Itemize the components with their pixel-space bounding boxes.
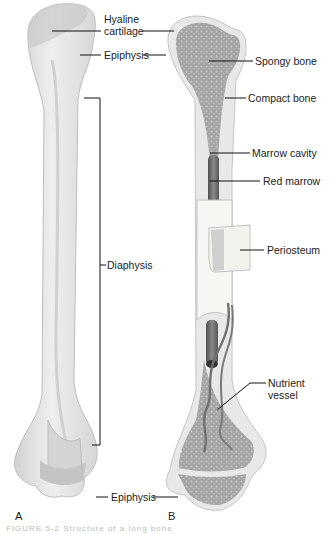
label-diaphysis: Diaphysis bbox=[107, 259, 153, 271]
panel-label-a: A bbox=[15, 510, 22, 522]
label-compact-bone: Compact bone bbox=[248, 92, 316, 104]
label-epiphysis-top: Epiphysis bbox=[104, 49, 149, 61]
label-epiphysis-bottom: Epiphysis bbox=[111, 491, 156, 503]
figure-caption: FIGURE 5-2 Structure of a long bone bbox=[6, 524, 173, 533]
bone-b-section bbox=[166, 16, 266, 510]
label-periosteum: Periosteum bbox=[267, 244, 320, 256]
label-hyaline-cartilage: Hyaline cartilage bbox=[104, 13, 144, 37]
panel-label-b: B bbox=[168, 510, 175, 522]
label-red-marrow: Red marrow bbox=[263, 175, 320, 187]
label-marrow-cavity: Marrow cavity bbox=[252, 147, 317, 159]
long-bone-diagram bbox=[0, 0, 331, 534]
label-nutrient-vessel: Nutrient vessel bbox=[268, 377, 305, 401]
label-spongy-bone: Spongy bone bbox=[255, 55, 317, 67]
bone-a-external bbox=[14, 4, 97, 498]
